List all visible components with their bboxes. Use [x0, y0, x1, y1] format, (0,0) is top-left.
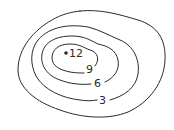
peak-label: 12 — [69, 47, 83, 60]
contour-label-9: 9 — [86, 63, 93, 76]
contour-line-6 — [42, 36, 119, 84]
contour-map: 12 9 6 3 — [0, 0, 174, 130]
contour-label-6: 6 — [94, 77, 101, 90]
contour-label-3: 3 — [99, 94, 106, 107]
peak-dot — [64, 51, 68, 55]
